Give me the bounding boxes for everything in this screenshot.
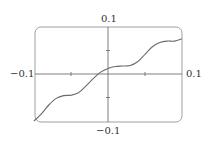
x-axis-right-label: 0.1	[186, 69, 202, 79]
x-axis-left-label: −0.1	[10, 69, 34, 79]
y-axis-bottom-label: −0.1	[96, 126, 120, 136]
y-axis-top-label: 0.1	[101, 14, 117, 24]
plot-frame	[35, 27, 182, 122]
